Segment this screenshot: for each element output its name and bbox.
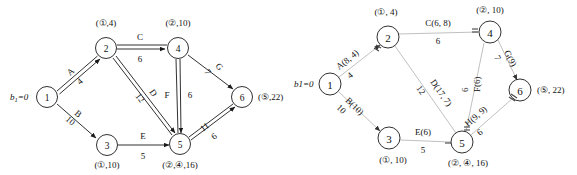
- left-edge-A: A 4: [57, 56, 100, 94]
- left-node-6-label: (⑤,22): [258, 92, 283, 102]
- left-edge-E-name: E: [140, 131, 146, 141]
- left-node-3[interactable]: 3: [97, 135, 118, 156]
- left-edge-E-value: 5: [141, 151, 146, 161]
- left-edge-H-value: 6: [209, 131, 219, 142]
- left-graph-svg: A 4 B 10 C 6 D 12: [0, 0, 290, 175]
- right-node-5-label: (②, ④, 16): [448, 158, 488, 168]
- left-node-2-label: (①,4): [96, 18, 117, 28]
- right-edge-E-name: E(6): [415, 127, 431, 137]
- left-edge-B: B 10: [57, 104, 96, 138]
- left-source-eq: =0: [18, 92, 29, 102]
- right-node-3-num: 3: [386, 133, 392, 145]
- left-node-2[interactable]: 2: [96, 38, 117, 59]
- right-node-4[interactable]: 4: [479, 21, 501, 43]
- left-node-6[interactable]: 6: [232, 87, 253, 108]
- right-edge-B: B(10) 10: [335, 92, 380, 131]
- right-node-2-num: 2: [385, 32, 391, 44]
- left-node-4-label: (②,10): [165, 18, 190, 28]
- right-node-4-num: 4: [487, 27, 493, 39]
- right-edge-A-name: A(8, 4): [334, 48, 361, 72]
- right-network-diagram: A(8, 4) 4 B(10) 10 C(6, 8) 6 D(17, 7) 12: [290, 0, 577, 175]
- left-edge-G: G 7: [188, 55, 233, 89]
- right-edge-C: C(6, 8) 6: [398, 18, 479, 46]
- right-edge-G-name: G(9): [502, 48, 518, 68]
- right-graph-svg: A(8, 4) 4 B(10) 10 C(6, 8) 6 D(17, 7) 12: [290, 0, 577, 175]
- right-edge-F-name: F(6): [472, 76, 482, 92]
- left-source-label: b1=0: [10, 92, 29, 103]
- right-edge-F-value: 6: [460, 87, 470, 92]
- right-edge-D-value: 12: [414, 83, 427, 96]
- left-node-6-num: 6: [240, 93, 245, 103]
- right-edge-E-value: 5: [421, 145, 426, 155]
- right-edge-H-value: 6: [475, 127, 485, 138]
- left-network-diagram: A 4 B 10 C 6 D 12: [0, 0, 290, 175]
- left-edge-F: F 6: [164, 59, 192, 133]
- right-node-1-num: 1: [327, 79, 333, 91]
- right-node-6-num: 6: [517, 85, 523, 97]
- left-edge-C: C 6: [117, 32, 167, 64]
- right-edge-G-value: 7: [492, 53, 503, 62]
- right-edge-H-name: H(9, 9): [463, 104, 489, 129]
- right-edge-E: E(6) 5: [400, 127, 451, 155]
- left-node-5[interactable]: 5: [170, 134, 191, 155]
- right-source-label: b1=0: [294, 79, 314, 89]
- left-edge-D-name: D: [147, 87, 159, 99]
- right-node-6-label: (⑤, 22): [537, 85, 565, 95]
- right-edge-A: A(8, 4) 4: [334, 45, 381, 81]
- left-edge-G-value: 7: [202, 67, 213, 77]
- right-edge-H: H(9, 9) 6: [463, 94, 517, 138]
- left-edge-C-value: 6: [138, 54, 143, 64]
- right-node-5[interactable]: 5: [451, 131, 473, 153]
- left-node-1-num: 1: [45, 93, 50, 103]
- left-node-1[interactable]: 1: [37, 87, 58, 108]
- left-node-4[interactable]: 4: [168, 38, 189, 59]
- right-node-4-label: (②, 10): [476, 5, 504, 15]
- right-node-1[interactable]: 1: [319, 73, 341, 95]
- left-edge-F-name: F: [164, 90, 169, 100]
- right-edge-D: D(17, 7) 12: [395, 46, 456, 133]
- left-edge-G-name: G: [213, 61, 225, 73]
- right-edge-C-name: C(6, 8): [425, 18, 451, 28]
- right-node-6[interactable]: 6: [509, 79, 531, 101]
- left-node-3-num: 3: [105, 141, 110, 151]
- left-node-5-label: (②,④,16): [162, 160, 198, 170]
- figure-root: A 4 B 10 C 6 D 12: [0, 0, 577, 175]
- left-edge-E: E 5: [118, 131, 169, 161]
- right-edge-G: G(9) 7: [492, 40, 518, 80]
- left-edge-A-value: 4: [75, 76, 85, 87]
- right-edge-C-value: 6: [436, 36, 441, 46]
- left-node-3-label: (①,10): [94, 160, 119, 170]
- right-node-3-label: (①, 10): [379, 155, 407, 165]
- right-node-2-label: (①, 4): [375, 7, 398, 17]
- right-edge-D-name: D(17, 7): [428, 77, 454, 108]
- right-node-2[interactable]: 2: [377, 26, 399, 48]
- left-node-5-num: 5: [178, 140, 183, 150]
- right-node-3[interactable]: 3: [378, 127, 400, 149]
- left-edge-F-value: 6: [188, 90, 193, 100]
- right-edge-A-value: 4: [345, 70, 355, 81]
- left-node-4-num: 4: [176, 44, 181, 54]
- left-edge-H: 11 6: [189, 104, 235, 142]
- right-node-5-num: 5: [459, 137, 465, 149]
- left-edge-C-name: C: [137, 32, 143, 42]
- left-node-2-num: 2: [104, 44, 109, 54]
